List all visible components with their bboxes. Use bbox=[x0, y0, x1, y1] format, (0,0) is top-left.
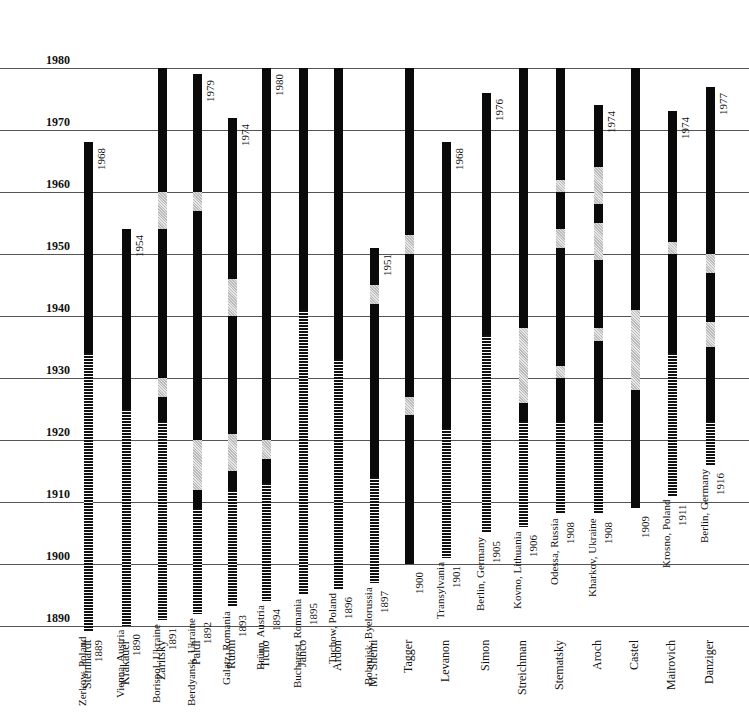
end-year-label: 1968 bbox=[453, 148, 465, 170]
artist-name: Stematsky bbox=[552, 640, 567, 690]
bar-segment-solid bbox=[706, 273, 715, 323]
bar-segment-solid bbox=[370, 304, 379, 478]
end-year-label: 1951 bbox=[381, 254, 393, 276]
bar-segment-solid bbox=[519, 403, 528, 422]
end-year-label: 1954 bbox=[133, 235, 145, 257]
bar-segment-gray bbox=[556, 366, 565, 378]
birth-year-label: 1897 bbox=[378, 591, 390, 613]
bar-segment-solid bbox=[193, 490, 202, 509]
bar-segment-solid bbox=[228, 118, 237, 279]
birth-year-label: 1896 bbox=[342, 597, 354, 619]
bar-segment-gray bbox=[668, 242, 677, 254]
origin-label: Odessa, Russia bbox=[548, 519, 560, 586]
bar-segment-hatch bbox=[594, 421, 603, 514]
artist-name: Mairovich bbox=[664, 640, 679, 690]
bar-segment-gray bbox=[706, 254, 715, 273]
bar-segment-solid bbox=[631, 390, 640, 508]
bar-segment-hatch bbox=[706, 421, 715, 464]
birth-year-label: 1908 bbox=[602, 522, 614, 544]
bar-segment-hatch bbox=[482, 335, 491, 533]
y-tick-label: 1900 bbox=[46, 549, 70, 564]
bar-segment-gray bbox=[556, 180, 565, 192]
bar-segment-solid bbox=[262, 68, 271, 440]
bar-segment-hatch bbox=[442, 428, 451, 558]
bar-segment-solid bbox=[228, 471, 237, 490]
artist-name: Aroch bbox=[590, 640, 605, 670]
origin-label: Kharkov, Ukraine bbox=[586, 519, 598, 598]
bar-segment-solid bbox=[668, 254, 677, 353]
bar-segment-solid bbox=[556, 68, 565, 180]
artist-name: Ardon bbox=[330, 640, 345, 671]
bar-segment-solid bbox=[299, 68, 308, 310]
bar-segment-solid bbox=[556, 378, 565, 421]
end-year-label: 1968 bbox=[95, 148, 107, 170]
bar-segment-gray bbox=[370, 285, 379, 304]
end-year-label: 1974 bbox=[605, 111, 617, 133]
end-year-label: 1979 bbox=[204, 80, 216, 102]
bar-segment-solid bbox=[442, 142, 451, 427]
bar-segment-solid bbox=[594, 204, 603, 223]
origin-label: Berlin, Germany bbox=[698, 469, 710, 543]
bar-segment-hatch bbox=[158, 421, 167, 619]
y-tick-label: 1960 bbox=[46, 177, 70, 192]
artist-name: Zaritsky bbox=[154, 640, 169, 680]
end-year-label: 1977 bbox=[717, 93, 729, 115]
bar-segment-solid bbox=[262, 459, 271, 484]
bar-segment-gray bbox=[262, 440, 271, 459]
y-tick-label: 1920 bbox=[46, 425, 70, 440]
gridline bbox=[0, 626, 749, 627]
bar-segment-hatch bbox=[262, 483, 271, 601]
birth-year-label: 1906 bbox=[527, 535, 539, 557]
bar-segment-solid bbox=[405, 254, 414, 397]
y-tick-label: 1910 bbox=[46, 487, 70, 502]
bar-segment-solid bbox=[370, 248, 379, 285]
bar-segment-gray bbox=[228, 279, 237, 316]
bar-segment-gray bbox=[706, 322, 715, 347]
end-year-label: 1974 bbox=[239, 124, 251, 146]
bar-segment-gray bbox=[193, 440, 202, 490]
birth-year-label: 1901 bbox=[450, 566, 462, 588]
y-tick-label: 1940 bbox=[46, 301, 70, 316]
bar-segment-gray bbox=[405, 397, 414, 416]
bar-segment-solid bbox=[706, 87, 715, 254]
birth-year-label: 1908 bbox=[564, 522, 576, 544]
bar-segment-gray bbox=[158, 192, 167, 229]
artist-name: M. Shemi bbox=[366, 640, 381, 687]
bar-segment-solid bbox=[193, 74, 202, 192]
origin-label: Kovno, Lithuania bbox=[511, 531, 523, 609]
bar-segment-gray bbox=[519, 328, 528, 402]
bar-segment-solid bbox=[405, 415, 414, 564]
bar-segment-gray bbox=[228, 434, 237, 471]
y-tick-label: 1890 bbox=[46, 611, 70, 626]
birth-year-label: 1900 bbox=[413, 572, 425, 594]
origin-label: Transylvania bbox=[434, 562, 446, 619]
bar-segment-solid bbox=[158, 229, 167, 378]
bar-segment-solid bbox=[405, 68, 414, 235]
artist-name: Steinhardt bbox=[80, 640, 95, 689]
bar-segment-solid bbox=[122, 229, 131, 409]
y-tick-label: 1980 bbox=[46, 53, 70, 68]
bar-segment-gray bbox=[594, 328, 603, 340]
artist-name: Streichman bbox=[515, 640, 530, 695]
birth-year-label: 1893 bbox=[236, 615, 248, 637]
artist-name: Ticho bbox=[258, 640, 273, 668]
origin-label: Berlin, Germany bbox=[474, 537, 486, 611]
bar-segment-solid bbox=[482, 93, 491, 335]
bar-segment-hatch bbox=[370, 477, 379, 582]
artist-name: Tagger bbox=[401, 640, 416, 673]
birth-year-label: 1916 bbox=[714, 473, 726, 495]
end-year-label: 1976 bbox=[493, 99, 505, 121]
bar-segment-hatch bbox=[556, 421, 565, 514]
bar-segment-hatch bbox=[122, 409, 131, 626]
artist-name: Castel bbox=[627, 640, 642, 670]
bar-segment-solid bbox=[193, 211, 202, 440]
bar-segment-solid bbox=[158, 68, 167, 192]
bar-segment-hatch bbox=[193, 508, 202, 613]
artist-name: Krakauer bbox=[118, 640, 133, 685]
bar-segment-gray bbox=[405, 235, 414, 254]
birth-year-label: 1911 bbox=[676, 504, 688, 526]
y-tick-label: 1950 bbox=[46, 239, 70, 254]
bar-segment-hatch bbox=[84, 353, 93, 632]
origin-label: Krosno, Poland bbox=[660, 499, 672, 567]
bar-segment-solid bbox=[158, 397, 167, 422]
